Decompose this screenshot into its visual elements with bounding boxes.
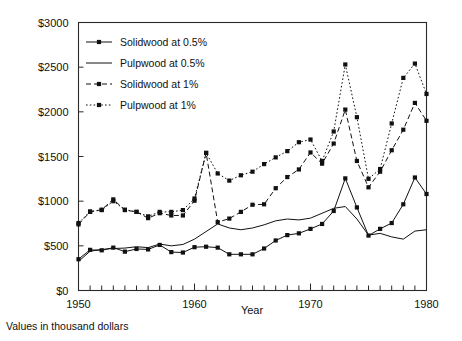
data-point-marker <box>355 115 359 119</box>
data-point-marker <box>169 210 173 214</box>
data-point-marker <box>169 213 173 217</box>
data-point-marker <box>343 108 347 112</box>
data-point-marker <box>227 216 231 220</box>
legend-swatch-marker <box>97 82 101 86</box>
data-point-marker <box>378 227 382 231</box>
data-point-marker <box>192 245 196 249</box>
data-point-marker <box>239 252 243 256</box>
data-point-marker <box>285 149 289 153</box>
data-point-marker <box>297 140 301 144</box>
legend-swatch-marker <box>97 103 101 107</box>
figure-background <box>0 0 462 341</box>
data-point-marker <box>250 203 254 207</box>
data-point-marker <box>308 137 312 141</box>
data-point-marker <box>297 167 301 171</box>
data-point-marker <box>181 213 185 217</box>
data-point-marker <box>76 221 80 225</box>
data-point-marker <box>378 167 382 171</box>
data-point-marker <box>181 208 185 212</box>
data-point-marker <box>413 101 417 105</box>
data-point-marker <box>308 227 312 231</box>
data-point-marker <box>355 205 359 209</box>
legend-item-label: Pulpwood at 0.5% <box>120 57 205 69</box>
data-point-marker <box>390 121 394 125</box>
data-point-marker <box>332 209 336 213</box>
y-tick-label: $500 <box>44 240 68 252</box>
data-point-marker <box>355 159 359 163</box>
data-point-marker <box>239 173 243 177</box>
data-point-marker <box>250 170 254 174</box>
x-tick-label: 1960 <box>182 298 206 310</box>
data-point-marker <box>390 221 394 225</box>
y-tick-label: $0 <box>56 285 68 297</box>
legend-item-label: Pulpwood at 1% <box>120 99 196 111</box>
data-point-marker <box>332 129 336 133</box>
data-point-marker <box>424 92 428 96</box>
data-point-marker <box>134 247 138 251</box>
data-point-marker <box>285 233 289 237</box>
y-tick-label: $2000 <box>38 106 69 118</box>
data-point-marker <box>262 246 266 250</box>
data-point-marker <box>111 199 115 203</box>
x-axis-title: Year <box>241 304 264 316</box>
data-point-marker <box>216 220 220 224</box>
data-point-marker <box>262 202 266 206</box>
data-point-marker <box>123 208 127 212</box>
data-point-marker <box>181 250 185 254</box>
data-point-marker <box>227 252 231 256</box>
data-point-marker <box>401 76 405 80</box>
y-tick-label: $2500 <box>38 61 69 73</box>
data-point-marker <box>390 148 394 152</box>
y-tick-label: $1500 <box>38 151 69 163</box>
data-point-marker <box>297 231 301 235</box>
legend-swatch-marker <box>97 40 101 44</box>
data-point-marker <box>123 250 127 254</box>
data-point-marker <box>134 210 138 214</box>
line-chart-figure: $0$500$1000$1500$2000$2500$3000 19501960… <box>0 0 462 341</box>
data-point-marker <box>424 192 428 196</box>
data-point-marker <box>169 250 173 254</box>
data-point-marker <box>250 252 254 256</box>
data-point-marker <box>401 128 405 132</box>
data-point-marker <box>192 196 196 200</box>
chart-caption: Values in thousand dollars <box>6 320 128 332</box>
data-point-marker <box>413 61 417 65</box>
data-point-marker <box>332 141 336 145</box>
data-point-marker <box>100 208 104 212</box>
data-point-marker <box>262 162 266 166</box>
legend-item-label: Solidwood at 0.5% <box>120 36 207 48</box>
data-point-marker <box>413 175 417 179</box>
data-point-marker <box>285 175 289 179</box>
x-tick-label: 1980 <box>414 298 438 310</box>
y-tick-label: $3000 <box>38 17 69 29</box>
data-point-marker <box>274 155 278 159</box>
data-point-marker <box>204 151 208 155</box>
data-point-marker <box>88 209 92 213</box>
legend-item-label: Solidwood at 1% <box>120 78 198 90</box>
data-point-marker <box>343 176 347 180</box>
data-point-marker <box>146 214 150 218</box>
data-point-marker <box>239 210 243 214</box>
data-point-marker <box>366 177 370 181</box>
chart-container: $0$500$1000$1500$2000$2500$3000 19501960… <box>0 0 462 341</box>
data-point-marker <box>227 179 231 183</box>
data-point-marker <box>320 222 324 226</box>
data-point-marker <box>204 245 208 249</box>
data-point-marker <box>274 238 278 242</box>
y-tick-label: $1000 <box>38 195 69 207</box>
data-point-marker <box>401 202 405 206</box>
data-point-marker <box>216 246 220 250</box>
data-point-marker <box>158 210 162 214</box>
data-point-marker <box>343 62 347 66</box>
data-point-marker <box>366 185 370 189</box>
data-point-marker <box>320 159 324 163</box>
x-tick-label: 1970 <box>298 298 322 310</box>
data-point-marker <box>216 171 220 175</box>
data-point-marker <box>274 186 278 190</box>
data-point-marker <box>424 119 428 123</box>
x-tick-label: 1950 <box>66 298 90 310</box>
data-point-marker <box>308 150 312 154</box>
